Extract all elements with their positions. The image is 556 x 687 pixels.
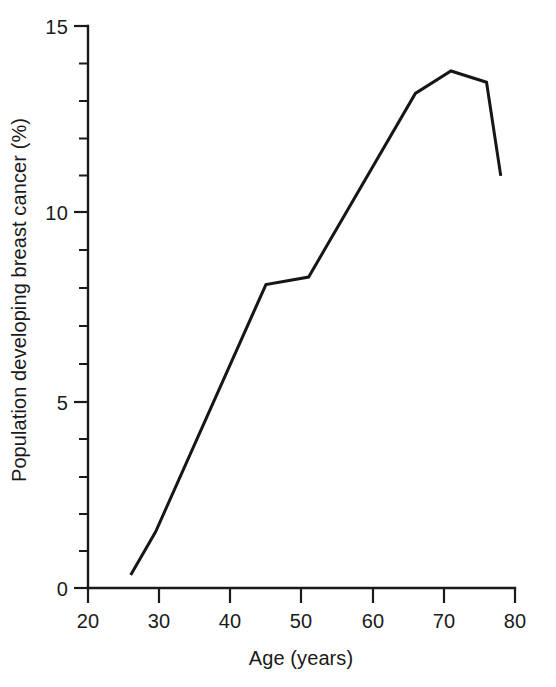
- y-tick-label-0: 0: [57, 578, 68, 600]
- chart-figure: 15 10 5 0 20 30 40 50 60 70 80 Age (year…: [0, 0, 556, 687]
- line-chart-svg: 15 10 5 0 20 30 40 50 60 70 80 Age (year…: [0, 0, 556, 687]
- x-tick-label-70: 70: [433, 610, 456, 632]
- x-tick-label-20: 20: [77, 610, 100, 632]
- y-tick-label-5: 5: [57, 392, 68, 414]
- x-tick-label-80: 80: [504, 610, 527, 632]
- x-axis-tick-labels: 20 30 40 50 60 70 80: [77, 610, 527, 632]
- x-tick-label-60: 60: [362, 610, 385, 632]
- data-series-line: [131, 71, 501, 575]
- x-tick-label-40: 40: [219, 610, 242, 632]
- y-axis-major-ticks: [74, 26, 88, 588]
- y-tick-label-10: 10: [45, 202, 68, 224]
- x-tick-label-30: 30: [148, 610, 171, 632]
- x-tick-label-50: 50: [290, 610, 313, 632]
- axes-group: [88, 26, 515, 588]
- y-axis-title: Population developing breast cancer (%): [8, 118, 30, 482]
- y-axis-tick-labels: 15 10 5 0: [45, 16, 68, 600]
- x-axis-title: Age (years): [249, 647, 353, 669]
- y-tick-label-15: 15: [45, 16, 68, 38]
- y-axis-minor-ticks: [79, 64, 88, 552]
- x-axis-major-ticks: [88, 588, 515, 603]
